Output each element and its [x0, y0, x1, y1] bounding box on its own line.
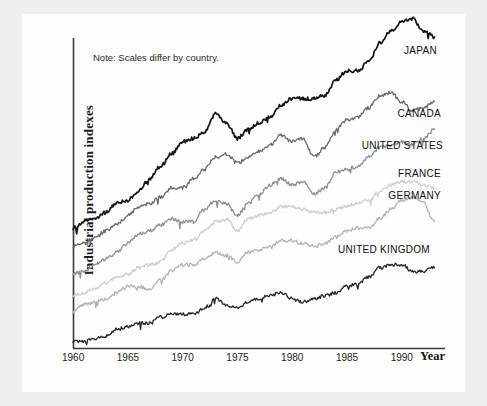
x-tick-label: 1975	[226, 352, 248, 363]
series-group	[73, 17, 435, 344]
x-tick-label: 1970	[172, 352, 194, 363]
x-tick-label: 1985	[336, 352, 358, 363]
figure-container: Industrial production indexes Note: Scal…	[0, 0, 487, 406]
series-label-united-kingdom: UNITED KINGDOM	[0, 244, 430, 255]
series-line-united-states	[73, 129, 435, 279]
series-label-united-states: UNITED STATES	[0, 140, 443, 151]
x-axis-label: Year	[420, 349, 445, 364]
series-label-japan: JAPAN	[0, 45, 437, 56]
x-tick-label: 1980	[281, 352, 303, 363]
series-label-france: FRANCE	[0, 168, 441, 179]
x-tick-label: 1990	[391, 352, 413, 363]
x-tick-label: 1965	[117, 352, 139, 363]
series-line-united-kingdom	[73, 263, 435, 344]
x-tick-label: 1960	[62, 352, 84, 363]
series-label-germany: GERMANY	[0, 190, 441, 201]
plot-area	[0, 0, 487, 406]
series-label-canada: CANADA	[0, 108, 441, 119]
